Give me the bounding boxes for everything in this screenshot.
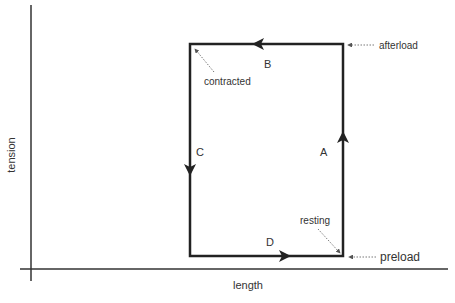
- segment-label-d: D: [266, 236, 274, 248]
- afterload-label: afterload: [379, 40, 418, 51]
- y-axis-label: tension: [5, 137, 17, 172]
- segment-label-c: C: [196, 146, 204, 158]
- contracted-leader: [195, 49, 214, 72]
- resting-leader: [318, 229, 340, 253]
- preload-label: preload: [380, 250, 420, 264]
- segment-label-b: B: [264, 58, 271, 70]
- tension-length-diagram: B A C D afterload contracted resting pre…: [0, 0, 455, 303]
- x-axis-label: length: [233, 279, 263, 291]
- resting-label: resting: [300, 215, 330, 226]
- contracted-label: contracted: [204, 76, 251, 87]
- segment-label-a: A: [320, 146, 328, 158]
